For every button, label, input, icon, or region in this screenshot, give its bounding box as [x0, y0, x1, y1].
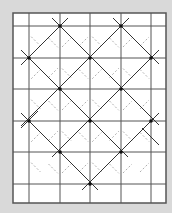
- node-dot: [88, 119, 92, 123]
- node-dot: [58, 24, 62, 28]
- node-dot: [88, 56, 92, 60]
- node-dot: [58, 87, 62, 91]
- node-dot: [119, 150, 123, 154]
- node-dot: [119, 87, 123, 91]
- node-dot: [88, 182, 92, 186]
- node-dot: [58, 150, 62, 154]
- node-dot: [119, 24, 123, 28]
- node-dot: [27, 56, 31, 60]
- node-dot: [149, 119, 153, 123]
- node-dot: [149, 56, 153, 60]
- diamond-grid-diagram: [0, 0, 172, 213]
- node-dot: [27, 119, 31, 123]
